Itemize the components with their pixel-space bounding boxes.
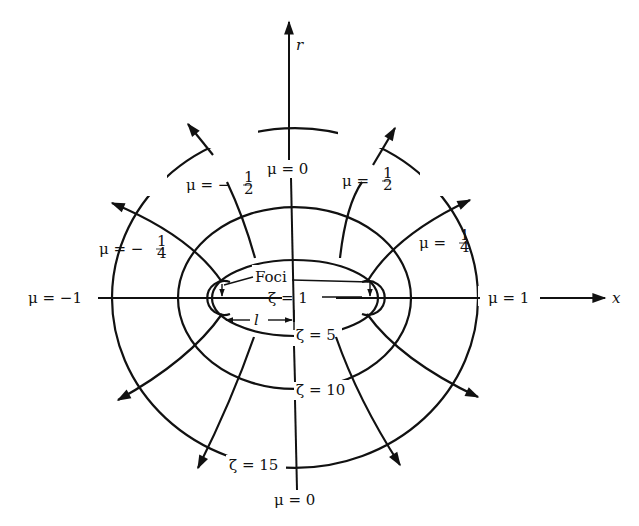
r-axis-lower xyxy=(294,346,295,382)
labels: r x μ = 0 μ = 0 μ = − 1 2 μ = 1 2 μ = − … xyxy=(28,36,621,509)
svg-text:μ = −: μ = − xyxy=(186,176,230,194)
svg-text:μ = −: μ = − xyxy=(99,240,143,258)
svg-text:2: 2 xyxy=(244,180,254,198)
label-mu-1: μ = 1 xyxy=(488,289,529,307)
label-mu-pos-half: μ = 1 2 xyxy=(342,164,393,194)
label-zeta-5: ζ = 5 xyxy=(296,326,336,344)
label-zeta-15: ζ = 15 xyxy=(229,456,278,474)
label-mu-pos-quarter: μ = 1 4 xyxy=(419,226,470,256)
label-zeta-10: ζ = 10 xyxy=(296,381,345,399)
svg-text:4: 4 xyxy=(157,244,167,262)
hyperbola-mu-pos-half-upper xyxy=(340,182,362,258)
hyperbola-mu-pos-half-lower xyxy=(336,337,400,465)
r-axis-label: r xyxy=(296,36,304,54)
label-focal-length: l xyxy=(254,311,259,329)
label-mu-neg-half: μ = − 1 2 xyxy=(186,168,254,198)
axes xyxy=(98,22,605,490)
label-mu-neg-quarter: μ = − 1 4 xyxy=(99,232,167,262)
label-foci: Foci xyxy=(255,268,287,286)
x-axis-label: x xyxy=(612,289,621,307)
label-mu-neg-1: μ = −1 xyxy=(28,289,82,307)
svg-text:μ =: μ = xyxy=(342,172,369,190)
prolate-spheroidal-coordinate-diagram: r x μ = 0 μ = 0 μ = − 1 2 μ = 1 2 μ = − … xyxy=(0,0,639,526)
svg-text:2: 2 xyxy=(383,176,393,194)
label-mu-0-bottom: μ = 0 xyxy=(274,491,315,509)
svg-text:μ =: μ = xyxy=(419,234,446,252)
r-axis-bottom xyxy=(295,400,297,490)
label-mu-0-top: μ = 0 xyxy=(267,160,308,178)
label-zeta-1: ζ = 1 xyxy=(268,289,308,307)
foci-leader-right xyxy=(292,280,370,282)
svg-text:4: 4 xyxy=(460,238,470,256)
